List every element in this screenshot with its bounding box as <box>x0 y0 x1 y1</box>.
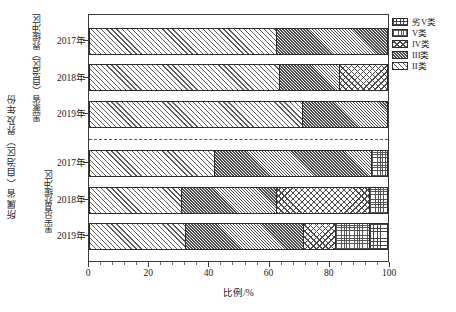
bar-segment <box>89 223 186 250</box>
legend-label: IV类 <box>412 40 430 49</box>
y-axis-category-labels: 2017年2018年2019年2017年2018年2019年 <box>36 0 86 312</box>
x-axis-major-tick <box>329 262 330 267</box>
x-axis-major-tick <box>148 262 149 267</box>
x-axis-tick-label: 0 <box>86 268 91 278</box>
y-axis-category-label: 2019年 <box>40 106 86 120</box>
y-axis-category-label: 2019年 <box>40 228 86 242</box>
x-axis-major-tick <box>208 262 209 267</box>
y-axis-category-label: 2018年 <box>40 192 86 206</box>
bar-segment <box>89 64 280 91</box>
legend: 劣V类V类IV类III类II类 <box>389 14 455 75</box>
y-axis-category-label: 2018年 <box>40 70 86 84</box>
bar-segment <box>370 223 388 250</box>
legend-item[interactable]: II类 <box>392 61 453 71</box>
x-axis-minor-tick <box>124 262 125 265</box>
legend-swatch-sparse-diagonal-icon <box>392 62 408 70</box>
legend-swatch-crosshatch-icon <box>392 40 408 48</box>
x-axis-minor-tick <box>377 262 378 265</box>
bar-segment <box>303 101 388 128</box>
bar-segment <box>89 28 277 55</box>
x-axis-minor-tick <box>196 262 197 265</box>
bar-row <box>89 64 388 91</box>
legend-label: III类 <box>412 51 430 60</box>
plot-area <box>88 14 389 262</box>
bar-segment <box>336 223 370 250</box>
bar-segment <box>89 101 303 128</box>
legend-label: II类 <box>412 62 427 71</box>
x-axis-tick-label: 40 <box>204 268 214 278</box>
legend-swatch-dense-diagonal-icon <box>392 51 408 59</box>
bar-row <box>89 223 388 250</box>
x-axis-minor-tick <box>341 262 342 265</box>
bar-segment <box>340 64 388 91</box>
x-axis-minor-tick <box>353 262 354 265</box>
bar-row <box>89 150 388 177</box>
x-axis-minor-tick <box>172 262 173 265</box>
x-axis-tick-label: 80 <box>324 268 334 278</box>
legend-label: V类 <box>412 29 427 38</box>
x-axis-minor-tick <box>365 262 366 265</box>
x-axis-major-tick <box>389 262 390 267</box>
x-axis-minor-tick <box>317 262 318 265</box>
y-axis-category-label: 2017年 <box>40 33 86 47</box>
x-axis-minor-tick <box>245 262 246 265</box>
stacked-bar-chart: 所属省（自治区）界及年份 黑蒙省（自治区）界缓冲区 黑吉省界缓冲区 2017年2… <box>0 0 456 312</box>
bar-segment <box>277 187 370 214</box>
x-axis-minor-tick <box>136 262 137 265</box>
bar-row <box>89 187 388 214</box>
legend-item[interactable]: III类 <box>392 50 453 60</box>
legend-item[interactable]: IV类 <box>392 39 453 49</box>
bar-segment <box>372 150 388 177</box>
bar-segment <box>280 64 340 91</box>
x-axis-major-tick <box>269 262 270 267</box>
y-axis-title: 所属省（自治区）界及年份 <box>2 0 24 312</box>
x-axis-minor-tick <box>100 262 101 265</box>
x-axis-minor-tick <box>112 262 113 265</box>
group-separator-line <box>89 139 388 140</box>
legend-swatch-dotted-grid-icon <box>392 29 408 37</box>
bar-row <box>89 101 388 128</box>
legend-item[interactable]: 劣V类 <box>392 17 453 27</box>
x-axis-minor-tick <box>220 262 221 265</box>
y-axis-category-label: 2017年 <box>40 155 86 169</box>
bar-segment <box>277 28 388 55</box>
x-axis-minor-tick <box>160 262 161 265</box>
legend-item[interactable]: V类 <box>392 28 453 38</box>
bar-segment <box>89 187 182 214</box>
x-axis-tick-labels: 020406080100 <box>88 268 389 282</box>
x-axis-minor-tick <box>293 262 294 265</box>
bar-segment <box>186 223 304 250</box>
x-axis-major-tick <box>88 262 89 267</box>
y-axis-title-text: 所属省（自治区）界及年份 <box>8 93 18 219</box>
x-axis-minor-tick <box>257 262 258 265</box>
x-axis-minor-tick <box>184 262 185 265</box>
bar-segment <box>215 150 372 177</box>
x-axis-tick-label: 60 <box>264 268 274 278</box>
x-axis-minor-tick <box>305 262 306 265</box>
bar-segment <box>89 150 215 177</box>
x-axis-tick-label: 100 <box>382 268 396 278</box>
bar-segment <box>370 187 388 214</box>
x-axis-minor-tick <box>232 262 233 265</box>
bar-segment <box>304 223 335 250</box>
legend-swatch-grid-icon <box>392 18 408 26</box>
bar-segment <box>182 187 278 214</box>
x-axis-minor-tick <box>281 262 282 265</box>
x-axis-tick-label: 20 <box>143 268 153 278</box>
bar-row <box>89 28 388 55</box>
x-axis-title: 比例/% <box>88 285 389 299</box>
legend-label: 劣V类 <box>412 18 436 27</box>
